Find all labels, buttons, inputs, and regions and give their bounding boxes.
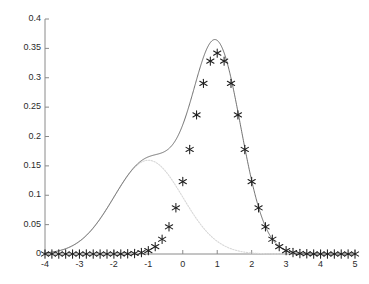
- mixture-sum-curve: [45, 40, 355, 254]
- figure-canvas: -4-3-2-101234500.050.10.150.20.250.30.35…: [0, 0, 369, 284]
- y-axis-tick-label: 0.1: [0, 189, 41, 199]
- x-axis-tick-label: 5: [335, 259, 369, 269]
- component-1-curve: [45, 160, 355, 254]
- y-axis-tick-label: 0.2: [0, 131, 41, 141]
- y-axis-tick-label: 0.15: [0, 160, 41, 170]
- y-axis-tick-label: 0.35: [0, 42, 41, 52]
- y-axis-tick-label: 0.3: [0, 72, 41, 82]
- y-axis-tick-label: 0.4: [0, 13, 41, 23]
- y-axis-tick-label: 0.25: [0, 101, 41, 111]
- y-axis-tick-label: 0.05: [0, 219, 41, 229]
- y-axis-tick-label: 0: [0, 248, 41, 258]
- gaussian-mixture-plot: [0, 0, 369, 284]
- component-2-markers: [41, 49, 358, 258]
